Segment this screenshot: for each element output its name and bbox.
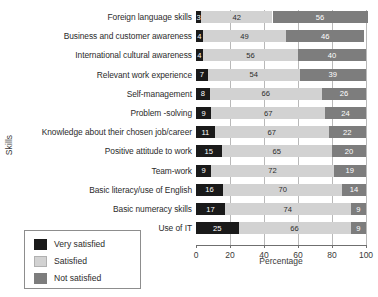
stacked-bar-chart: Skills Percentage Very satisfied Satisfi… [0, 0, 378, 297]
chart-legend: Very satisfied Satisfied Not satisfied [24, 230, 141, 289]
bar-segment: 16 [196, 184, 223, 196]
bar-segment: 65 [222, 145, 333, 157]
chart-row: Relevant work experience75439 [0, 69, 378, 81]
bar-segment: 7 [196, 69, 208, 81]
bar-segment: 70 [223, 184, 342, 196]
category-label: Positive attitude to work [6, 145, 192, 157]
category-label: Problem -solving [6, 107, 192, 119]
x-axis-tick-label: 100 [359, 250, 373, 260]
category-label: Basic numeracy skills [6, 203, 192, 215]
x-axis-tick-label: 20 [225, 250, 234, 260]
chart-row: Foreign language skills34256 [0, 11, 378, 23]
bar-segment: 8 [196, 88, 210, 100]
bar-segment: 20 [332, 145, 366, 157]
legend-label: Not satisfied [54, 273, 101, 283]
bar-segment: 66 [210, 88, 322, 100]
legend-label: Very satisfied [54, 239, 105, 249]
chart-row: Use of IT25669 [0, 222, 378, 234]
bar-segment: 74 [225, 203, 351, 215]
x-axis-line [196, 245, 366, 246]
category-label: Team-work [6, 165, 192, 177]
chart-row: Basic literacy/use of English167014 [0, 184, 378, 196]
legend-label: Satisfied [54, 256, 87, 266]
category-label: Use of IT [6, 222, 192, 234]
legend-swatch-icon-satisfied [34, 256, 47, 267]
x-axis-tick [264, 245, 265, 248]
stacked-bar: 75439 [196, 69, 366, 81]
bar-segment: 22 [329, 126, 366, 138]
bar-segment: 9 [351, 203, 366, 215]
stacked-bar: 156520 [196, 145, 366, 157]
bar-segment: 4 [196, 30, 203, 42]
stacked-bar: 167014 [196, 184, 366, 196]
chart-row: Problem -solving96724 [0, 107, 378, 119]
bar-segment: 72 [211, 165, 333, 177]
legend-item-satisfied: Satisfied [34, 253, 140, 269]
x-axis-tick [298, 245, 299, 248]
bar-segment: 17 [196, 203, 225, 215]
bar-segment: 11 [196, 126, 215, 138]
stacked-bar: 17749 [196, 203, 366, 215]
legend-item-not-satisfied: Not satisfied [34, 270, 140, 286]
category-label: Self-management [6, 88, 192, 100]
stacked-bar: 116722 [196, 126, 366, 138]
x-axis-tick [332, 245, 333, 248]
x-axis-tick-label: 0 [194, 250, 199, 260]
bar-segment: 54 [208, 69, 300, 81]
stacked-bar: 86626 [196, 88, 366, 100]
bar-segment: 67 [215, 126, 329, 138]
bar-segment: 14 [342, 184, 366, 196]
bar-segment: 24 [325, 107, 366, 119]
bar-segment: 56 [203, 49, 298, 61]
bar-segment: 9 [196, 107, 211, 119]
chart-row: International cultural awareness45640 [0, 49, 378, 61]
bar-segment: 49 [203, 30, 286, 42]
bar-segment: 56 [273, 11, 368, 23]
bar-segment: 67 [211, 107, 325, 119]
legend-item-very-satisfied: Very satisfied [34, 236, 140, 252]
category-label: Foreign language skills [6, 11, 192, 23]
stacked-bar: 96724 [196, 107, 366, 119]
chart-row: Basic numeracy skills17749 [0, 203, 378, 215]
chart-row: Business and customer awareness44946 [0, 30, 378, 42]
bar-segment: 46 [286, 30, 364, 42]
x-axis-tick [366, 245, 367, 248]
bar-segment: 40 [298, 49, 366, 61]
legend-swatch-icon-very-satisfied [34, 239, 47, 250]
bar-segment: 4 [196, 49, 203, 61]
chart-row: Team-work97219 [0, 165, 378, 177]
category-label: Relevant work experience [6, 69, 192, 81]
x-axis-tick [196, 245, 197, 248]
chart-row: Self-management86626 [0, 88, 378, 100]
bar-segment: 39 [300, 69, 366, 81]
x-axis-tick-label: 60 [293, 250, 302, 260]
chart-row: Positive attitude to work156520 [0, 145, 378, 157]
x-axis-tick-label: 80 [327, 250, 336, 260]
legend-swatch-icon-not-satisfied [34, 273, 47, 284]
category-label: Knowledge about their chosen job/career [6, 126, 192, 138]
category-label: Basic literacy/use of English [6, 184, 192, 196]
bar-segment: 66 [239, 222, 351, 234]
stacked-bar: 25669 [196, 222, 366, 234]
category-label: International cultural awareness [6, 49, 192, 61]
bar-segment: 19 [334, 165, 366, 177]
bar-segment: 9 [196, 165, 211, 177]
stacked-bar: 97219 [196, 165, 366, 177]
bar-segment: 26 [322, 88, 366, 100]
stacked-bar: 44946 [196, 30, 366, 42]
category-label: Business and customer awareness [6, 30, 192, 42]
bar-segment: 25 [196, 222, 239, 234]
x-axis-tick [230, 245, 231, 248]
bar-segment: 9 [351, 222, 366, 234]
bar-segment: 15 [196, 145, 222, 157]
x-axis-tick-label: 40 [259, 250, 268, 260]
x-axis-title: Percentage [196, 256, 366, 266]
stacked-bar: 45640 [196, 49, 366, 61]
bar-segment: 42 [201, 11, 272, 23]
stacked-bar: 34256 [196, 11, 366, 23]
chart-row: Knowledge about their chosen job/career1… [0, 126, 378, 138]
